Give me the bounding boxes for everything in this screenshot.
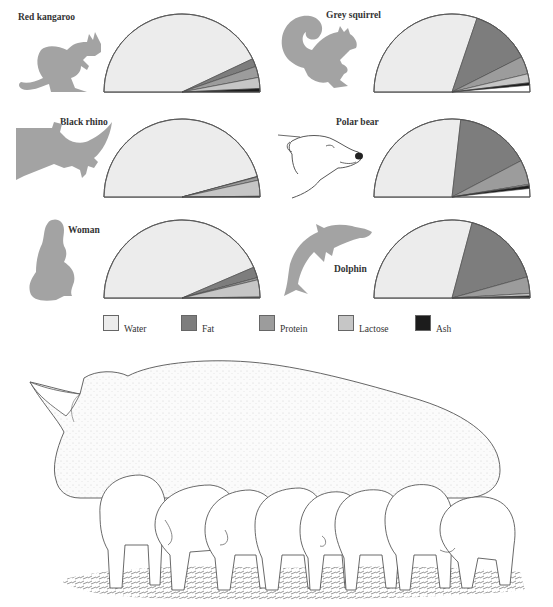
- legend-label: Fat: [202, 324, 214, 334]
- legend-label: Water: [124, 324, 146, 334]
- dolphin-icon: [282, 222, 374, 302]
- legend-swatch: [259, 315, 275, 331]
- pie-dolphin: [370, 214, 540, 304]
- legend-label: Ash: [436, 324, 451, 334]
- legend-swatch: [181, 315, 197, 331]
- sow-with-piglets-illustration: [0, 340, 553, 607]
- squirrel-icon: [278, 8, 362, 92]
- pie-polar-bear: [370, 113, 540, 203]
- pie-black-rhino: [100, 113, 270, 203]
- rhino-icon: [14, 122, 114, 184]
- kangaroo-icon: [15, 28, 105, 94]
- pie-woman: [100, 214, 270, 304]
- pie-red-kangaroo: [100, 8, 270, 98]
- legend-swatch: [338, 315, 354, 331]
- legend-label: Protein: [280, 324, 307, 334]
- polar-bear-icon: [278, 132, 368, 200]
- pie-grey-squirrel: [370, 8, 540, 98]
- pie-slice-water: [374, 119, 461, 197]
- legend-label: Lactose: [359, 324, 389, 334]
- woman-icon: [26, 218, 78, 302]
- legend-swatch: [103, 315, 119, 331]
- legend-swatch: [415, 315, 431, 331]
- chart-legend: Water Fat Protein Lactose Ash: [103, 315, 523, 337]
- animal-label: Red kangaroo: [18, 12, 75, 22]
